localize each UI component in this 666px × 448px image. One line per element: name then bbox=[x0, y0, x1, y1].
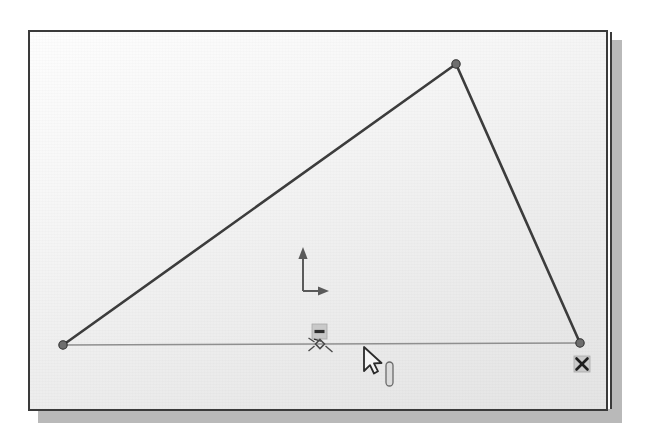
window-right-rail bbox=[608, 32, 612, 409]
sketch-lines bbox=[63, 64, 580, 345]
sketch-geometry-layer bbox=[30, 32, 606, 409]
sketch-vertices bbox=[59, 60, 584, 349]
screenshot-root: CAD Sketch Graphics Window Sketch Left E… bbox=[0, 0, 666, 448]
text-beam-indicator bbox=[386, 362, 393, 386]
right-vertex[interactable] bbox=[576, 339, 584, 347]
right-leg-line[interactable] bbox=[456, 64, 580, 343]
origin-y-axis-arrowhead bbox=[298, 247, 307, 259]
hypotenuse-line[interactable] bbox=[63, 64, 456, 345]
pointer-arrow-icon bbox=[364, 347, 382, 374]
sketch-canvas[interactable] bbox=[30, 32, 606, 409]
coincident-constraint-marker[interactable] bbox=[574, 356, 590, 372]
horizontal-constraint-marker[interactable] bbox=[312, 324, 327, 341]
mouse-pointer bbox=[364, 347, 393, 386]
horizontal-bar-icon bbox=[315, 330, 325, 333]
x-cross-icon-center-dot bbox=[580, 362, 583, 365]
snap-indicator bbox=[309, 338, 333, 352]
base-line[interactable] bbox=[63, 343, 580, 345]
apex-vertex[interactable] bbox=[452, 60, 460, 68]
left-vertex[interactable] bbox=[59, 341, 67, 349]
cad-graphics-window[interactable] bbox=[28, 30, 608, 411]
origin-x-axis-arrowhead bbox=[318, 286, 329, 295]
snap-tick-lower-left bbox=[309, 346, 315, 351]
sketch-origin-axes[interactable] bbox=[298, 247, 329, 296]
snap-tick-lower-right bbox=[326, 346, 333, 352]
